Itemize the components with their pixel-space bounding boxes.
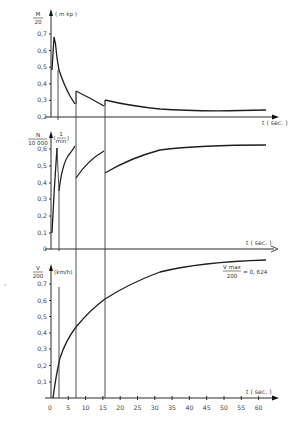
rpm-yticks: 0,6 0,5 0,4 0,3 0,2 0,1 0 xyxy=(37,145,51,252)
svg-text:0,4: 0,4 xyxy=(37,80,47,87)
rpm-unit-num: 1 xyxy=(59,131,63,137)
gear-shift-lines xyxy=(58,70,105,398)
svg-text:0,3: 0,3 xyxy=(37,96,47,103)
rpm-gear-4-curve xyxy=(105,145,266,173)
svg-text:0,2: 0,2 xyxy=(37,212,47,219)
speed-unit: (km/h) xyxy=(54,269,72,275)
y-axis-arrow-icon xyxy=(49,131,53,138)
svg-text:45: 45 xyxy=(203,404,211,411)
svg-text:55: 55 xyxy=(237,404,245,411)
speed-ylabel-den: 200 xyxy=(33,273,44,279)
svg-text:0,6: 0,6 xyxy=(37,297,47,304)
svg-text:0,6: 0,6 xyxy=(37,145,47,152)
rpm-gear-3-curve xyxy=(76,151,104,178)
svg-text:15: 15 xyxy=(99,404,107,411)
acceleration-chart: M 20 ( m kp ) 0,7 0,6 0,5 0,4 0,3 0,2 t … xyxy=(0,0,298,428)
torque-unit: ( m kp ) xyxy=(55,11,77,18)
svg-text:0,2: 0,2 xyxy=(37,113,47,120)
rpm-gear-1-curve xyxy=(52,148,57,233)
svg-text:20: 20 xyxy=(116,404,124,411)
vmax-num: V max xyxy=(223,264,241,270)
y-axis-arrow-icon xyxy=(49,264,53,271)
rpm-panel: N 10 000 ( 1 min ) 0,6 0,5 0,4 0,3 0,2 0… xyxy=(28,131,278,252)
svg-text:0,1: 0,1 xyxy=(37,378,47,385)
rpm-gear-2-curve xyxy=(59,146,75,191)
svg-text:60: 60 xyxy=(255,404,263,411)
svg-text:0,7: 0,7 xyxy=(37,30,47,37)
torque-panel: M 20 ( m kp ) 0,7 0,6 0,5 0,4 0,3 0,2 t … xyxy=(33,9,288,126)
svg-text:5: 5 xyxy=(66,404,70,411)
y-axis-arrow-icon xyxy=(49,9,53,16)
torque-gear-1-2-curve xyxy=(52,37,75,104)
svg-text:35: 35 xyxy=(168,404,176,411)
svg-text:10: 10 xyxy=(82,404,90,411)
svg-text:0,7: 0,7 xyxy=(37,280,47,287)
svg-text:0: 0 xyxy=(48,404,52,411)
svg-text:0,6: 0,6 xyxy=(37,47,47,54)
svg-text:0,4: 0,4 xyxy=(37,179,47,186)
torque-gear-4-curve xyxy=(105,100,266,111)
svg-text:0,3: 0,3 xyxy=(37,195,47,202)
svg-text:0,3: 0,3 xyxy=(37,345,47,352)
svg-text:40: 40 xyxy=(185,404,193,411)
rpm-unit-den: min xyxy=(56,138,67,144)
torque-gear-3-curve xyxy=(76,91,104,106)
torque-ylabel-num: M xyxy=(36,11,41,17)
svg-text:): ) xyxy=(67,135,69,141)
torque-ylabel-den: 20 xyxy=(34,19,42,25)
torque-yticks: 0,7 0,6 0,5 0,4 0,3 0,2 xyxy=(37,30,51,120)
svg-text:0,4: 0,4 xyxy=(37,329,47,336)
svg-text:0,5: 0,5 xyxy=(37,162,47,169)
vmax-den: 200 xyxy=(227,273,238,279)
svg-text:25: 25 xyxy=(134,404,142,411)
rpm-xlabel: t ( sec. ) xyxy=(246,239,272,246)
speed-curve xyxy=(53,260,266,398)
svg-text:0,1: 0,1 xyxy=(37,229,47,236)
speed-xlabel: t ( sec. ) xyxy=(246,388,272,395)
svg-text:30: 30 xyxy=(151,404,159,411)
torque-xlabel: t ( sec. ) xyxy=(262,119,288,126)
svg-text:0,5: 0,5 xyxy=(37,313,47,320)
speed-yticks: 0,7 0,6 0,5 0,4 0,3 0,2 0,1 xyxy=(37,280,51,385)
svg-text:0,2: 0,2 xyxy=(37,362,47,369)
speed-ylabel-num: V xyxy=(36,265,40,271)
rpm-ylabel-num: N xyxy=(36,132,40,138)
svg-text:0: 0 xyxy=(43,245,47,252)
stray-mark: , xyxy=(4,279,6,286)
x-axis-arrow-icon xyxy=(272,396,279,401)
svg-text:0,5: 0,5 xyxy=(37,63,47,70)
vmax-value: = 0, 624 xyxy=(243,269,268,275)
speed-panel: V 200 (km/h) 0,7 0,6 0,5 0,4 0,3 0,2 0,1… xyxy=(33,260,279,411)
svg-text:50: 50 xyxy=(220,404,228,411)
